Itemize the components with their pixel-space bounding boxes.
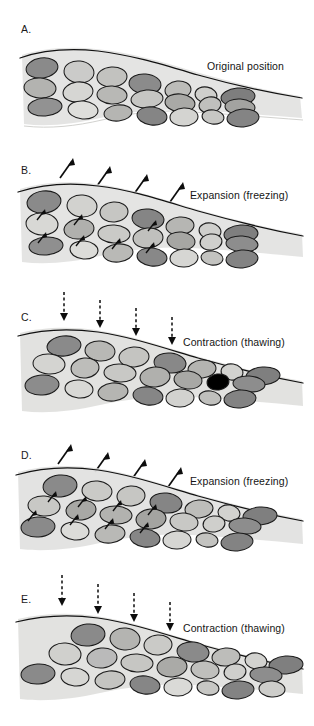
- panel-b-letter: B.: [21, 164, 31, 176]
- panel-e-label: Contraction (thawing): [183, 622, 285, 634]
- panel-c: C. Contraction (thawing): [0, 290, 314, 430]
- arrow-down-dashed-icon: [96, 300, 104, 328]
- panel-b: B. Expansion (freezing): [0, 145, 314, 290]
- arrow-up-right-solid-icon: [168, 467, 183, 487]
- frost-creep-figure: A. Original position: [0, 0, 314, 726]
- arrow-up-right-solid-icon: [170, 182, 185, 202]
- arrow-down-dashed-icon: [168, 317, 176, 345]
- panel-a-label: Original position: [207, 60, 284, 72]
- panel-a: A. Original position: [0, 0, 314, 145]
- panel-e-drawing: [0, 575, 314, 726]
- panel-e: E. Contraction (thawing): [0, 575, 314, 726]
- arrow-up-right-solid-icon: [60, 158, 75, 178]
- panel-b-drawing: [0, 145, 314, 290]
- panel-a-letter: A.: [21, 23, 31, 35]
- arrow-down-dashed-icon: [58, 575, 66, 606]
- arrow-up-right-solid-icon: [97, 166, 112, 186]
- panel-a-drawing: [0, 0, 314, 145]
- arrow-down-dashed-icon: [166, 602, 174, 631]
- arrow-down-dashed-icon: [132, 308, 140, 336]
- arrow-down-dashed-icon: [94, 584, 102, 614]
- panel-d-label: Expansion (freezing): [190, 475, 288, 487]
- arrow-down-dashed-icon: [60, 292, 68, 321]
- panel-d-drawing: [0, 430, 314, 575]
- arrow-up-right-solid-icon: [58, 444, 73, 464]
- panel-b-label: Expansion (freezing): [190, 189, 288, 201]
- panel-c-label: Contraction (thawing): [183, 336, 285, 348]
- arrow-down-dashed-icon: [130, 593, 138, 622]
- panel-d: D. Expansion (freezing): [0, 430, 314, 575]
- panel-c-drawing: [0, 290, 314, 430]
- panel-c-letter: C.: [21, 311, 32, 323]
- panel-d-letter: D.: [21, 449, 32, 461]
- arrow-up-right-solid-icon: [134, 174, 149, 194]
- panel-e-letter: E.: [21, 593, 31, 605]
